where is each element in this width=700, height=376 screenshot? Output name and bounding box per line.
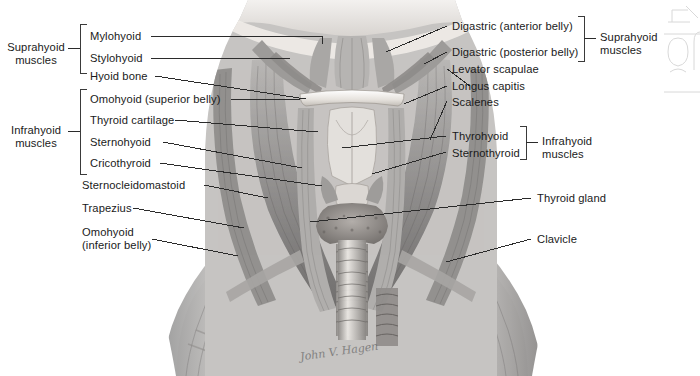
label-hyoid-bone: Hyoid bone xyxy=(90,70,148,83)
label-thyroid-gland: Thyroid gland xyxy=(537,192,606,205)
label-scalenes: Scalenes xyxy=(452,96,499,109)
label-omohyoid-superior: Omohyoid (superior belly) xyxy=(90,93,221,106)
bracket-suprahyoid-right xyxy=(578,16,585,62)
label-mylohyoid: Mylohyoid xyxy=(90,30,141,43)
label-omohyoid-inferior: Omohyoid (inferior belly) xyxy=(82,226,151,251)
bracket-tick-suprahyoid-right xyxy=(584,38,596,39)
group-label-suprahyoid-left: Suprahyoid muscles xyxy=(6,41,66,66)
anatomy-figure: Suprahyoid muscles Infrahyoid muscles Su… xyxy=(0,0,700,376)
bracket-infrahyoid-left xyxy=(80,89,87,175)
label-levator-scapulae: Levator scapulae xyxy=(452,63,539,76)
label-clavicle: Clavicle xyxy=(537,233,577,246)
label-sternothyroid: Sternothyroid xyxy=(452,147,520,160)
label-cricothyroid: Cricothyroid xyxy=(90,157,151,170)
label-digastric-anterior: Digastric (anterior belly) xyxy=(452,20,573,33)
label-digastric-posterior: Digastric (posterior belly) xyxy=(452,46,578,59)
label-trapezius: Trapezius xyxy=(82,202,132,215)
label-stylohyoid: Stylohyoid xyxy=(90,52,143,65)
group-label-suprahyoid-right: Suprahyoid muscles xyxy=(600,31,658,56)
group-label-infrahyoid-right: Infrahyoid muscles xyxy=(542,135,592,160)
label-thyroid-cartilage: Thyroid cartilage xyxy=(90,114,174,127)
label-sternohyoid: Sternohyoid xyxy=(90,136,151,149)
bracket-suprahyoid-left xyxy=(80,24,87,74)
bracket-tick-infrahyoid-left xyxy=(68,131,80,132)
bracket-infrahyoid-right xyxy=(520,126,527,160)
group-label-infrahyoid-left: Infrahyoid muscles xyxy=(6,124,66,149)
label-longus-capitis: Longus capitis xyxy=(452,80,525,93)
label-sternocleidomastoid: Sternocleidomastoid xyxy=(82,179,185,192)
bracket-tick-infrahyoid-right xyxy=(526,142,538,143)
bracket-tick-suprahyoid-left xyxy=(68,48,80,49)
label-thyrohyoid: Thyrohyoid xyxy=(452,130,508,143)
